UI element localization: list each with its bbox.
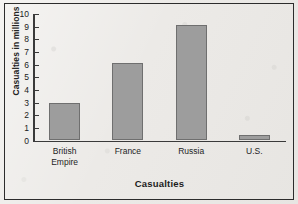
y-tick-label: 10 <box>20 9 29 19</box>
chart-page: Casualties in millions 012345678910 Brit… <box>0 0 298 204</box>
x-tick-label-3: U.S. <box>215 146 294 157</box>
y-tick-mark <box>34 115 39 116</box>
y-tick-mark <box>34 27 39 28</box>
y-tick-label: 2 <box>24 110 29 120</box>
y-tick-label: 3 <box>24 98 29 108</box>
y-tick-label: 6 <box>24 60 29 70</box>
y-tick-label: 9 <box>24 22 29 32</box>
y-tick-mark <box>34 52 39 53</box>
y-tick-label: 8 <box>24 34 29 44</box>
y-tick-mark <box>34 39 39 40</box>
y-tick-mark <box>34 65 39 66</box>
bar-russia <box>176 25 207 140</box>
y-tick-mark <box>34 77 39 78</box>
y-tick-mark <box>34 141 39 142</box>
bar-france <box>112 63 143 140</box>
bar-british-empire <box>49 103 80 141</box>
plot-area: 012345678910 <box>33 14 286 142</box>
y-tick-mark <box>34 128 39 129</box>
y-tick-label: 5 <box>24 72 29 82</box>
y-tick-mark <box>34 14 39 15</box>
x-axis-title: Casualties <box>33 178 286 189</box>
y-tick-label: 1 <box>24 123 29 133</box>
x-axis-line <box>33 141 286 143</box>
y-tick-mark <box>34 103 39 104</box>
bar-u-s <box>239 135 270 141</box>
y-tick-mark <box>34 90 39 91</box>
y-tick-label: 0 <box>24 136 29 146</box>
y-tick-label: 7 <box>24 47 29 57</box>
y-tick-label: 4 <box>24 85 29 95</box>
